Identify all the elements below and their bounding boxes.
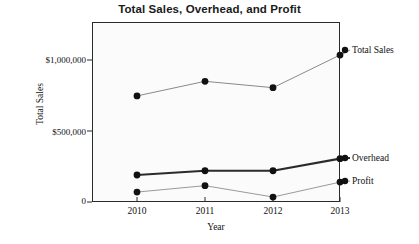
- chart-canvas: [0, 0, 419, 244]
- data-point-profit-2010: [134, 189, 141, 196]
- data-point-profit-2012: [270, 194, 277, 201]
- data-series-group: [134, 47, 350, 201]
- data-point-total-sales-2012: [270, 84, 277, 91]
- chart-figure: Total Sales, Overhead, and Profit $1,000…: [0, 0, 419, 244]
- axis-ticks: [87, 60, 340, 202]
- legend-marker-total-sales: [342, 47, 348, 53]
- legend-marker-profit: [342, 178, 348, 184]
- legend-marker-overhead: [342, 155, 348, 161]
- series-line-profit: [137, 182, 340, 197]
- data-point-profit-2011: [202, 182, 209, 189]
- series-line-total-sales: [137, 55, 340, 96]
- series-line-overhead: [137, 159, 340, 175]
- data-point-total-sales-2013: [337, 52, 344, 59]
- data-point-total-sales-2011: [202, 78, 209, 85]
- data-point-overhead-2010: [134, 172, 141, 179]
- data-point-overhead-2011: [202, 167, 209, 174]
- data-point-overhead-2012: [270, 167, 277, 174]
- data-point-total-sales-2010: [134, 93, 141, 100]
